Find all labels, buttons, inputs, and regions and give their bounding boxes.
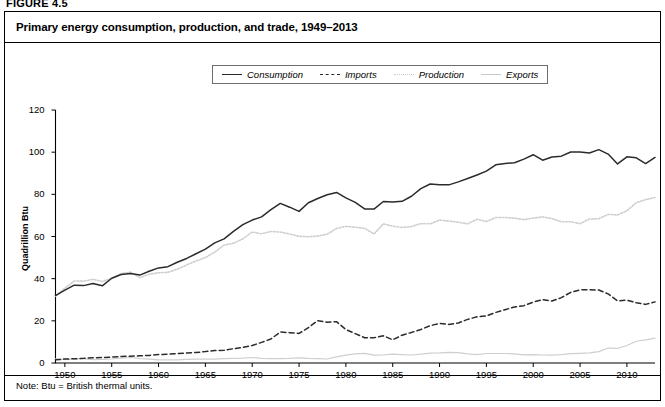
legend-item-production[interactable]: Production — [394, 69, 464, 80]
legend-label-exports: Exports — [506, 69, 538, 80]
legend-item-imports[interactable]: Imports — [320, 69, 377, 80]
line-dashed-icon — [320, 71, 340, 79]
legend-label-consumption: Consumption — [247, 69, 303, 80]
chart-legend: Consumption Imports Production Exports — [212, 65, 548, 84]
legend-label-production: Production — [419, 69, 464, 80]
legend-label-imports: Imports — [345, 69, 377, 80]
figure-note: Note: Btu = British thermal units. — [16, 380, 153, 391]
legend-item-consumption[interactable]: Consumption — [222, 69, 303, 80]
figure-number: FIGURE 4.5 — [6, 0, 68, 9]
note-divider — [5, 375, 660, 376]
line-light-icon — [481, 71, 501, 79]
line-solid-icon — [222, 71, 242, 79]
title-divider — [5, 42, 660, 43]
figure-title: Primary energy consumption, production, … — [16, 21, 358, 33]
figure-root: FIGURE 4.5 Primary energy consumption, p… — [0, 0, 665, 407]
line-dotted-icon — [394, 71, 414, 79]
legend-item-exports[interactable]: Exports — [481, 69, 538, 80]
